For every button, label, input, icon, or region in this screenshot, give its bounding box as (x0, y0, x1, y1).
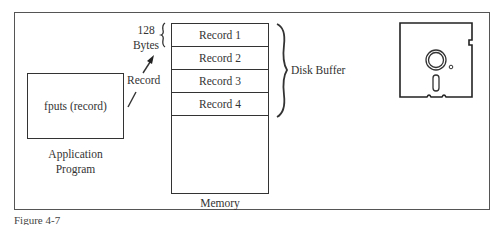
figure-caption: Figure 4-7 (14, 214, 60, 225)
memory-box: Record 1 Record 2 Record 3 Record 4 (171, 23, 269, 194)
record-row: Record 3 (172, 70, 268, 93)
record-row: Record 1 (172, 24, 268, 47)
record-size-brace-icon (161, 23, 165, 47)
record-row: Record 2 (172, 47, 268, 70)
disk-buffer-label: Disk Buffer (291, 64, 345, 77)
record-row: Record 4 (172, 93, 268, 116)
disk-buffer-brace-icon (277, 24, 287, 117)
record-arrow-icon (128, 55, 154, 107)
memory-label: Memory (171, 197, 269, 210)
floppy-disk-icon (400, 23, 472, 97)
